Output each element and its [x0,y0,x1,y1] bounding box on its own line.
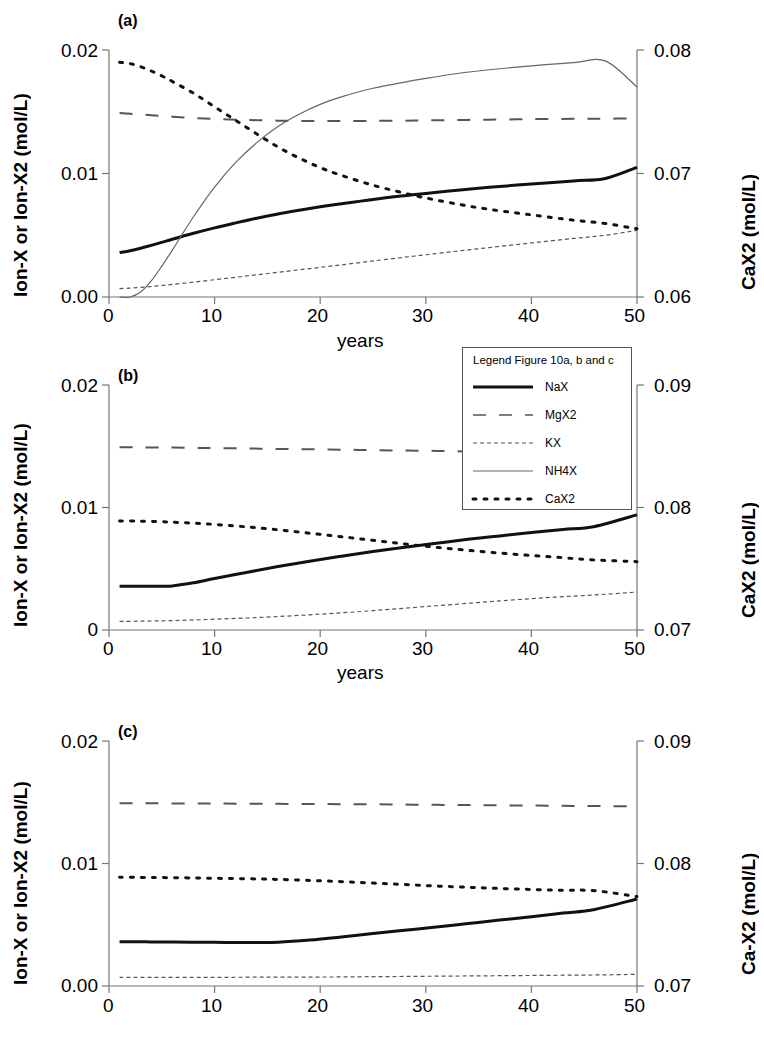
series-mgx2 [120,803,637,806]
panel-b-plot [0,350,764,695]
figure-legend: Legend Figure 10a, b and c NaX MgX2 KX N… [462,347,632,510]
legend-label-cax2: CaX2 [545,492,575,506]
panel-c-plot [0,695,764,1057]
series-cax2 [120,521,637,562]
legend-label-mgx2: MgX2 [545,408,576,422]
legend-item-cax2: CaX2 [471,488,625,510]
panel-b: Ion-X or Ion-X2 (mol/L) CaX2 (mol/L) (b)… [0,350,764,695]
legend-swatch-mgx2 [471,404,535,426]
legend-label-kx: KX [545,436,561,450]
legend-swatch-nax [471,376,535,398]
legend-swatch-nh4x [471,460,535,482]
series-mgx2 [120,113,637,121]
legend-label-nax: NaX [545,380,568,394]
legend-swatch-cax2 [471,488,535,510]
panel-a-plot [0,0,764,350]
panel-a: Ion-X or Ion-X2 (mol/L) CaX2 (mol/L) (a)… [0,0,764,350]
series-nax [120,899,637,942]
series-cax2 [120,877,637,896]
panel-c: Ion-X or Ion-X2 (mol/L) Ca-X2 (mol/L) (c… [0,695,764,1057]
legend-title: Legend Figure 10a, b and c [473,354,614,366]
series-kx [120,974,637,977]
legend-label-nh4x: NH4X [545,464,577,478]
legend-swatch-kx [471,432,535,454]
legend-item-kx: KX [471,432,625,454]
series-nax [120,515,637,586]
legend-item-nh4x: NH4X [471,460,625,482]
series-nh4x [120,59,637,297]
series-kx [120,592,637,621]
series-kx [120,230,637,288]
legend-item-nax: NaX [471,376,625,398]
legend-item-mgx2: MgX2 [471,404,625,426]
